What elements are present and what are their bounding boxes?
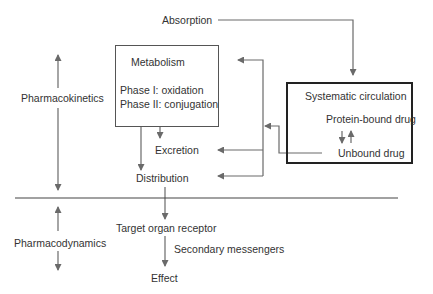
phase-2-label: Phase II: conjugation [120,98,218,110]
distribution-label: Distribution [136,172,189,184]
metabolism-title: Metabolism [131,56,185,68]
absorption-arrow [218,20,353,75]
pharmacology-diagram: Absorption Pharmacokinetics Metabolism P… [0,0,433,294]
pharmacokinetics-label: Pharmacokinetics [21,92,104,104]
systemic-circulation-title: Systematic circulation [305,90,407,102]
target-organ-label: Target organ receptor [116,222,216,234]
pharmacodynamics-label: Pharmacodynamics [14,237,106,249]
unbound-drug-label: Unbound drug [338,147,405,159]
protein-bound-label: Protein-bound drug [326,113,416,125]
absorption-label: Absorption [162,14,212,26]
phase-1-label: Phase I: oxidation [120,84,203,96]
excretion-label: Excretion [155,144,199,156]
secondary-messengers-label: Secondary messengers [174,243,284,255]
effect-label: Effect [151,272,178,284]
